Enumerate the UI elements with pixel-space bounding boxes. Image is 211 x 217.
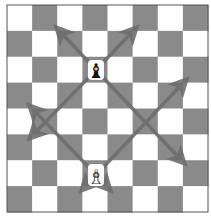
- board-square: [57, 5, 83, 31]
- board-square: [7, 83, 33, 109]
- board-square: [7, 57, 33, 83]
- board-square: [32, 5, 58, 31]
- svg-text:♝: ♝: [87, 59, 105, 83]
- board-square: [183, 160, 209, 186]
- board-square: [158, 186, 184, 212]
- board-square: [57, 109, 83, 135]
- board-square: [82, 109, 108, 135]
- board-square: [133, 134, 159, 160]
- board-square: [82, 31, 108, 57]
- board-square: [133, 5, 159, 31]
- board-square: [183, 134, 209, 160]
- board-square: [158, 57, 184, 83]
- board-square: [108, 5, 134, 31]
- board-square: [158, 5, 184, 31]
- board-square: [158, 31, 184, 57]
- board-square: [183, 31, 209, 57]
- board-square: [82, 83, 108, 109]
- board-square: [108, 57, 134, 83]
- board-square: [133, 186, 159, 212]
- board-square: [183, 109, 209, 135]
- board-square: [57, 57, 83, 83]
- board-square: [183, 5, 209, 31]
- board-square: [183, 83, 209, 109]
- board-square: [108, 109, 134, 135]
- board-square: [82, 5, 108, 31]
- board-square: [7, 134, 33, 160]
- board-square: [133, 160, 159, 186]
- board-square: [183, 57, 209, 83]
- board-square: [7, 109, 33, 135]
- board-square: [57, 186, 83, 212]
- board-square: [7, 31, 33, 57]
- board-square: [7, 5, 33, 31]
- chessboard-diagram: ♝ ♗: [0, 0, 211, 217]
- board-square: [57, 160, 83, 186]
- board-square: [32, 31, 58, 57]
- board-square: [133, 83, 159, 109]
- board-square: [82, 186, 108, 212]
- board-square: [158, 109, 184, 135]
- board-square: [108, 160, 134, 186]
- svg-text:♗: ♗: [87, 165, 105, 189]
- board-square: [32, 57, 58, 83]
- board-square: [32, 186, 58, 212]
- board-square: [158, 160, 184, 186]
- board-square: [133, 31, 159, 57]
- board-square: [133, 57, 159, 83]
- board-square: [32, 83, 58, 109]
- board-square: [82, 134, 108, 160]
- board-square: [7, 160, 33, 186]
- board-square: [32, 134, 58, 160]
- board-square: [7, 186, 33, 212]
- board-square: [108, 186, 134, 212]
- black-bishop-icon: ♝: [87, 59, 105, 83]
- board-square: [183, 186, 209, 212]
- board-square: [32, 160, 58, 186]
- white-bishop-icon: ♗: [87, 164, 105, 189]
- board-squares: [7, 5, 209, 213]
